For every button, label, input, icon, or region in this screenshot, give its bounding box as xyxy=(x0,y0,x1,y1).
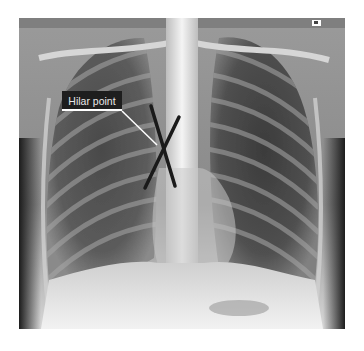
hilar-point-label: Hilar point xyxy=(62,91,122,111)
chest-xray-image xyxy=(19,18,345,329)
